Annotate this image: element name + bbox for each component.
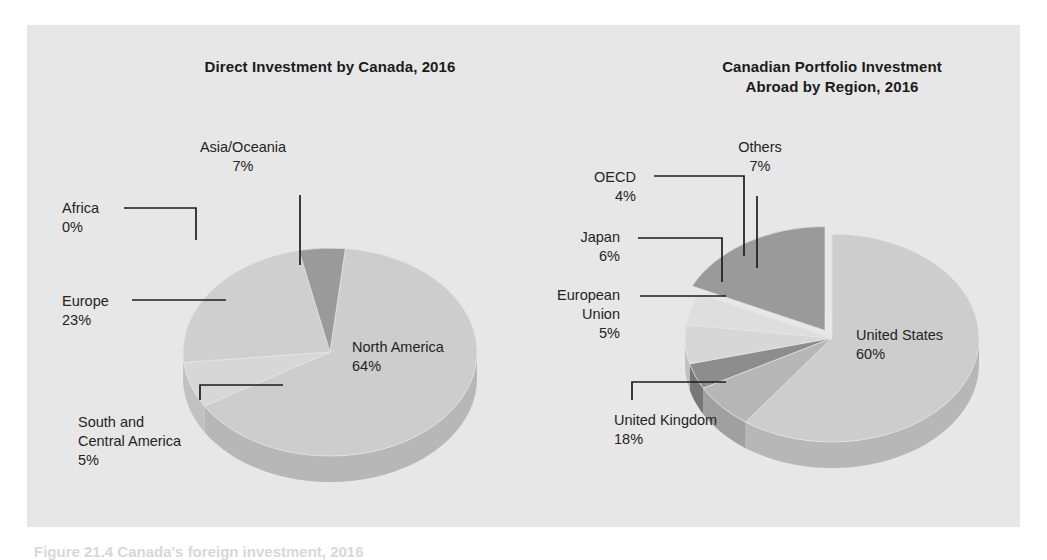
leader-line-1 — [124, 208, 196, 240]
pie-label-text: 23% — [62, 312, 91, 328]
figure-caption-text: Figure 21.4 Canada's foreign investment,… — [34, 543, 554, 560]
pie-label-text: 64% — [352, 358, 381, 374]
pie-label-text: Others — [738, 139, 782, 155]
pie-label-text: OECD — [594, 169, 636, 185]
figure-caption-partial: Figure 21.4 Canada's foreign investment,… — [34, 543, 554, 560]
chart-title-line: Canadian Portfolio Investment — [722, 58, 942, 75]
pie-chart-portfolio-investment: Canadian Portfolio InvestmentAbroad by R… — [557, 58, 979, 468]
pie-label-others: Others7% — [738, 139, 782, 174]
pie-label-south-and-central-america: South andCentral America5% — [78, 414, 182, 468]
pie-label-asia-oceania: Asia/Oceania7% — [200, 139, 287, 174]
pie-label-text: North America — [352, 339, 445, 355]
pie-chart-direct-investment: Direct Investment by Canada, 2016North A… — [62, 58, 477, 482]
pie-label-text: Africa — [62, 200, 100, 216]
leader-line-1 — [654, 176, 744, 256]
pie-label-text: 60% — [856, 346, 885, 362]
pie-label-text: Union — [582, 306, 620, 322]
pie-label-text: 18% — [614, 431, 643, 447]
pie-label-text: Europe — [62, 293, 109, 309]
pie-label-text: United Kingdom — [614, 412, 717, 428]
pie-label-europe: Europe23% — [62, 293, 109, 328]
pie-label-text: United States — [856, 327, 943, 343]
pie-label-text: South and — [78, 414, 144, 430]
charts-canvas: Direct Investment by Canada, 2016North A… — [0, 0, 1047, 560]
chart-title-line: Direct Investment by Canada, 2016 — [205, 58, 456, 75]
pie-label-oecd: OECD4% — [594, 169, 636, 204]
pie-label-text: 0% — [62, 219, 83, 235]
pie-label-united-kingdom: United Kingdom18% — [614, 412, 717, 447]
pie-label-text: Japan — [580, 229, 620, 245]
pie-label-text: 4% — [615, 188, 636, 204]
pie-label-text: 5% — [78, 452, 99, 468]
chart-title-line: Abroad by Region, 2016 — [745, 78, 918, 95]
pie-label-text: 6% — [599, 248, 620, 264]
pie-label-africa: Africa0% — [62, 200, 100, 235]
pie-label-text: 7% — [233, 158, 254, 174]
pie-label-text: Asia/Oceania — [200, 139, 287, 155]
pie-label-japan: Japan6% — [580, 229, 620, 264]
pie-label-european-union: EuropeanUnion5% — [557, 287, 620, 341]
pie-label-text: 5% — [599, 325, 620, 341]
pie-label-text: European — [557, 287, 620, 303]
pie-label-text: Central America — [78, 433, 182, 449]
pie-label-text: 7% — [750, 158, 771, 174]
